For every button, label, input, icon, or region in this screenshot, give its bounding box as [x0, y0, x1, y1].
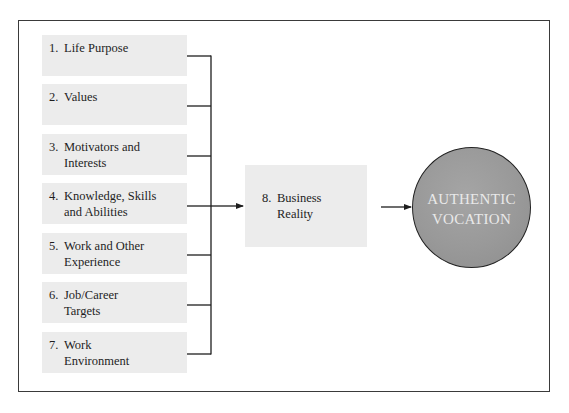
authentic-vocation-circle: AUTHENTIC VOCATION [412, 147, 531, 268]
business-reality-box: 8. Business Reality [245, 165, 367, 247]
business-reality-number: 8. [262, 190, 277, 247]
authentic-vocation-label: AUTHENTIC VOCATION [427, 189, 516, 229]
business-reality-label: Business Reality [277, 190, 321, 247]
